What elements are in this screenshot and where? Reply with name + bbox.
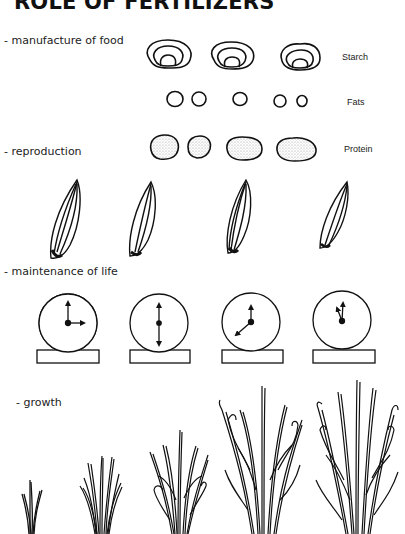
clock-icon-8-00	[222, 293, 283, 363]
starch-granule-icon	[147, 40, 191, 68]
illustration-canvas	[0, 0, 405, 534]
starch-granule-icon	[212, 42, 254, 69]
fat-droplet-icon	[167, 92, 307, 108]
grain-seed-icon	[227, 180, 251, 253]
grass-plant-icon	[22, 480, 42, 534]
grass-plant-icon	[316, 380, 398, 534]
grain-seed-icon	[130, 182, 156, 256]
starch-granule-icon	[281, 44, 320, 70]
clock-icon-11-55	[313, 291, 375, 363]
clock-icon-3-00	[37, 294, 99, 363]
clock-icon-6-00	[130, 294, 190, 363]
protein-body-icon	[151, 135, 316, 161]
grass-plant-icon	[150, 430, 208, 534]
grass-plant-icon	[219, 386, 302, 534]
grass-plant-icon	[80, 456, 122, 534]
grain-seed-icon	[51, 180, 80, 258]
grain-seed-icon	[320, 182, 348, 248]
